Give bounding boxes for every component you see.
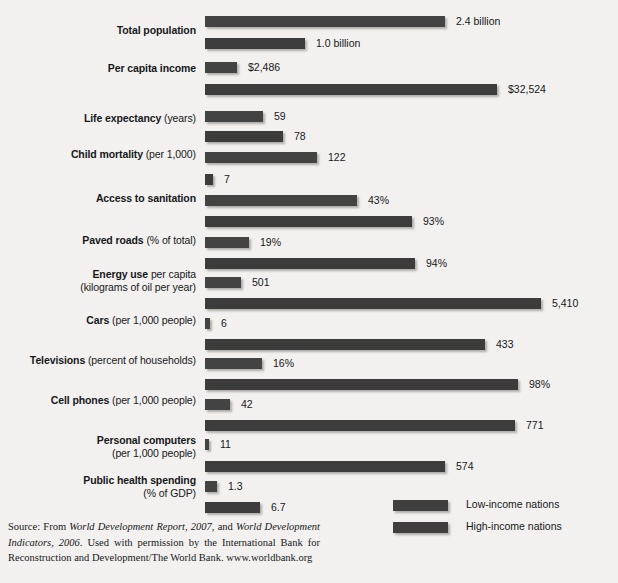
row-label: Access to sanitation: [0, 192, 196, 205]
bar-low-income: [205, 358, 262, 369]
bar-value-label: 433: [496, 339, 514, 350]
row-label: Child mortality (per 1,000): [0, 148, 196, 161]
legend-item-high-income: High-income nations: [393, 520, 613, 542]
bar-high-income: [205, 174, 213, 185]
bar-value-label: 42: [241, 399, 253, 410]
legend-label-low-income: Low-income nations: [466, 498, 559, 511]
bar-high-income: [205, 502, 260, 513]
bar-high-income: [205, 216, 412, 227]
legend-item-low-income: Low-income nations: [393, 498, 613, 520]
bar-low-income: [205, 277, 241, 288]
bar-value-label: 78: [294, 131, 306, 142]
legend-swatch-high-income: [393, 522, 448, 533]
legend-swatch-low-income: [393, 500, 448, 511]
row-label-primary: Energy use: [92, 268, 148, 280]
row-label: Life expectancy (years): [0, 112, 196, 125]
row-label-primary: Paved roads: [82, 234, 143, 246]
row-label: Public health spending(% of GDP): [0, 474, 196, 499]
bar-low-income: [205, 62, 237, 73]
bar-low-income: [205, 237, 249, 248]
bar-value-label: 7: [224, 174, 230, 185]
bar-value-label: 93%: [423, 216, 444, 227]
bar-high-income: [205, 379, 518, 390]
row-label-primary: Per capita income: [108, 62, 196, 74]
bar-value-label: 771: [526, 420, 544, 431]
row-label-primary: Access to sanitation: [96, 192, 196, 204]
source-prefix: Source: From: [8, 521, 69, 532]
row-label: Per capita income: [0, 62, 196, 75]
bar-low-income: [205, 399, 230, 410]
row-label-second-line: (% of GDP): [0, 487, 196, 500]
bar-value-label: 19%: [260, 237, 281, 248]
bar-value-label: 574: [456, 461, 474, 472]
bar-value-label: $32,524: [508, 84, 546, 95]
row-label: Total population: [0, 24, 196, 37]
bar-value-label: 11: [220, 439, 231, 450]
row-label-primary: Public health spending: [83, 474, 196, 486]
bar-value-label: 59: [274, 111, 286, 122]
bar-value-label: 6: [221, 318, 227, 329]
bar-value-label: 6.7: [271, 502, 286, 513]
bar-value-label: 43%: [368, 195, 389, 206]
row-label-primary: Child mortality: [71, 148, 143, 160]
bar-value-label: 5,410: [552, 298, 578, 309]
row-label: Televisions (percent of households): [0, 354, 196, 367]
bar-value-label: 2.4 billion: [456, 16, 500, 27]
row-label-primary: Cell phones: [51, 394, 109, 406]
bar-value-label: $2,486: [248, 62, 280, 73]
row-label: Personal computers(per 1,000 people): [0, 434, 196, 459]
row-label-primary: Cars: [86, 314, 109, 326]
bar-low-income: [205, 16, 445, 27]
bar-high-income: [205, 420, 515, 431]
row-label-qualifier: (percent of households): [85, 354, 196, 366]
bar-chart: Total population2.4 billion1.0 billionPe…: [0, 0, 618, 583]
bar-high-income: [205, 339, 485, 350]
bar-high-income: [205, 84, 497, 95]
bar-low-income: [205, 439, 209, 450]
bar-high-income: [205, 258, 415, 269]
bar-value-label: 94%: [426, 258, 447, 269]
source-mid: , and: [212, 521, 236, 532]
row-label: Paved roads (% of total): [0, 234, 196, 247]
source-note: Source: From World Development Report, 2…: [8, 519, 320, 566]
row-label-second-line: (kilograms of oil per year): [0, 281, 196, 294]
row-label-qualifier: (per 1,000 people): [109, 394, 196, 406]
bar-high-income: [205, 461, 445, 472]
bar-value-label: 98%: [529, 379, 550, 390]
row-label-qualifier: (% of total): [144, 234, 196, 246]
row-label-second-line: (per 1,000 people): [0, 447, 196, 460]
bar-low-income: [205, 318, 210, 329]
row-label-primary: Total population: [117, 24, 196, 36]
bar-high-income: [205, 131, 283, 142]
bar-value-label: 16%: [273, 358, 294, 369]
row-label: Cell phones (per 1,000 people): [0, 394, 196, 407]
legend-label-high-income: High-income nations: [466, 520, 562, 533]
row-label-primary: Personal computers: [97, 434, 196, 446]
bar-value-label: 1.3: [228, 481, 243, 492]
bar-low-income: [205, 111, 263, 122]
bar-value-label: 1.0 billion: [316, 38, 360, 49]
row-label: Cars (per 1,000 people): [0, 314, 196, 327]
row-label: Energy use per capita(kilograms of oil p…: [0, 268, 196, 293]
source-title-1: World Development Report, 2007: [69, 521, 212, 532]
row-label-primary: Life expectancy: [84, 112, 161, 124]
row-label-primary: Televisions: [30, 354, 85, 366]
row-label-qualifier: (per 1,000): [143, 148, 196, 160]
row-label-qualifier: per capita: [148, 268, 196, 280]
chart-legend: Low-income nations High-income nations: [393, 498, 613, 542]
bar-low-income: [205, 195, 357, 206]
bar-value-label: 122: [328, 152, 346, 163]
bar-high-income: [205, 298, 541, 309]
bar-low-income: [205, 481, 217, 492]
bar-high-income: [205, 38, 305, 49]
bar-value-label: 501: [252, 277, 270, 288]
bar-low-income: [205, 152, 317, 163]
row-label-qualifier: (per 1,000 people): [109, 314, 196, 326]
row-label-qualifier: (years): [161, 112, 196, 124]
